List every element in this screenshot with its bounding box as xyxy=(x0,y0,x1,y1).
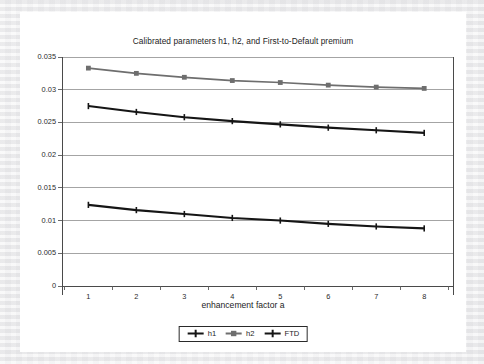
marker-h2 xyxy=(326,83,331,88)
x-tick-label: 5 xyxy=(268,292,292,301)
series-line-h2 xyxy=(88,68,424,88)
y-tick-label: 0.015 xyxy=(20,183,56,192)
marker-h2 xyxy=(278,80,283,85)
legend-item-h1[interactable]: h1 xyxy=(187,329,216,338)
y-tick-label: 0.03 xyxy=(20,85,56,94)
x-tick-label: 3 xyxy=(172,292,196,301)
legend-label-h2: h2 xyxy=(246,330,254,338)
marker-h2 xyxy=(230,78,235,83)
document-page: Calibrated parameters h1, h2, and First-… xyxy=(20,12,466,352)
x-tick-label: 4 xyxy=(220,292,244,301)
legend-item-ftd[interactable]: FTD xyxy=(264,329,300,338)
y-tick-label: 0.005 xyxy=(20,248,56,257)
y-tick-label: 0 xyxy=(20,281,56,290)
x-tick-label: 6 xyxy=(316,292,340,301)
x-tick-label: 1 xyxy=(76,292,100,301)
legend-label-h1: h1 xyxy=(208,330,216,338)
chart-figure: Calibrated parameters h1, h2, and First-… xyxy=(20,12,466,352)
series-line-ftd xyxy=(88,205,424,229)
legend-swatch-h2 xyxy=(225,329,243,338)
marker-h2 xyxy=(134,71,139,76)
y-tick-label: 0.02 xyxy=(20,150,56,159)
legend-swatch-h1 xyxy=(187,329,205,338)
marker-h2 xyxy=(86,66,91,71)
x-tick-label: 8 xyxy=(412,292,436,301)
x-tick-label: 2 xyxy=(124,292,148,301)
x-axis-label: enhancement factor a xyxy=(20,300,466,310)
marker-h2 xyxy=(422,86,427,91)
legend-item-h2[interactable]: h2 xyxy=(225,329,254,338)
chart-legend: h1 h2 FTD xyxy=(179,326,308,342)
legend-label-ftd: FTD xyxy=(285,330,300,338)
legend-swatch-ftd xyxy=(264,329,282,338)
x-tick-label: 7 xyxy=(364,292,388,301)
y-tick-label: 0.035 xyxy=(20,52,56,61)
series-line-h1 xyxy=(88,106,424,133)
marker-h2 xyxy=(182,75,187,80)
y-tick-label: 0.01 xyxy=(20,216,56,225)
y-tick-label: 0.025 xyxy=(20,117,56,126)
marker-h2 xyxy=(374,85,379,90)
